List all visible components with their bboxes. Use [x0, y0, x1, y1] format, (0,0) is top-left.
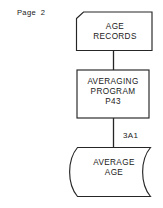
- flowchart-diagram: Page 2 AGE RECORDS AVERAGING PROGRAM P43…: [0, 0, 163, 208]
- diagram-canvas: [0, 0, 163, 208]
- node-shape-averaging-program: [77, 70, 149, 118]
- node-shape-age-records: [77, 12, 153, 51]
- reference-label-3a1: 3A1: [123, 131, 138, 140]
- node-shape-average-age: [70, 148, 151, 197]
